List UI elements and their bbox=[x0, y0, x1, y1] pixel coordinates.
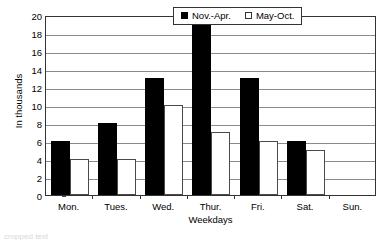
x-axis-title: Weekdays bbox=[45, 214, 376, 225]
x-tick-label: Wed. bbox=[140, 201, 187, 212]
x-tick-label: Sat. bbox=[281, 201, 328, 212]
bar-group bbox=[188, 17, 235, 195]
bar-sat-mayoct bbox=[306, 150, 325, 195]
bar-sat-novapr bbox=[287, 141, 306, 195]
y-tick-label: 18 bbox=[18, 30, 42, 40]
y-tick-mark bbox=[62, 196, 66, 197]
bar-group bbox=[46, 17, 93, 195]
y-tick-label: 20 bbox=[18, 12, 42, 22]
y-tick-label: 12 bbox=[18, 84, 42, 94]
legend-item-0: Nov.-Apr. bbox=[181, 10, 231, 21]
x-tick-label: Thur. bbox=[187, 201, 234, 212]
bar-group bbox=[141, 17, 188, 195]
y-tick-label: 6 bbox=[18, 138, 42, 148]
bar-tues-novapr bbox=[98, 123, 117, 195]
bar-tues-mayoct bbox=[117, 159, 136, 195]
legend-label-1: May-Oct. bbox=[256, 10, 295, 21]
legend-swatch-outline-icon bbox=[245, 12, 252, 19]
bar-mon-mayoct bbox=[70, 159, 89, 195]
x-tick-mark bbox=[187, 195, 188, 199]
y-tick-label: 8 bbox=[18, 120, 42, 130]
cropped-caption-sliver: cropped text bbox=[4, 232, 254, 240]
x-axis-ticks: Mon.Tues.Wed.Thur.Fri.Sat.Sun. bbox=[45, 201, 376, 215]
y-tick-label: 10 bbox=[18, 102, 42, 112]
y-tick-label: 0 bbox=[18, 192, 42, 202]
x-tick-label: Fri. bbox=[234, 201, 281, 212]
bar-fri-mayoct bbox=[259, 141, 278, 195]
legend-item-1: May-Oct. bbox=[245, 10, 295, 21]
bar-fri-novapr bbox=[240, 78, 259, 195]
x-tick-mark bbox=[92, 195, 93, 199]
chart-legend: Nov.-Apr. May-Oct. bbox=[173, 7, 302, 25]
bar-thur-mayoct bbox=[211, 132, 230, 195]
x-tick-label: Sun. bbox=[329, 201, 376, 212]
bar-group bbox=[330, 17, 377, 195]
x-tick-mark bbox=[234, 195, 235, 199]
bar-mon-novapr bbox=[51, 141, 70, 195]
x-tick-mark bbox=[281, 195, 282, 199]
y-axis-ticks: 02468101214161820 bbox=[18, 16, 42, 196]
x-tick-mark bbox=[140, 195, 141, 199]
y-tick-label: 16 bbox=[18, 48, 42, 58]
bar-chart: In thousands 02468101214161820 Nov.-Apr.… bbox=[0, 0, 388, 242]
y-tick-label: 2 bbox=[18, 174, 42, 184]
x-tick-mark bbox=[329, 195, 330, 199]
y-tick-label: 14 bbox=[18, 66, 42, 76]
legend-label-0: Nov.-Apr. bbox=[192, 10, 231, 21]
bar-wed-mayoct bbox=[164, 105, 183, 195]
bar-thur-novapr bbox=[192, 24, 211, 195]
bar-wed-novapr bbox=[145, 78, 164, 195]
bar-group bbox=[235, 17, 282, 195]
plot-inner bbox=[46, 17, 375, 195]
x-tick-label: Tues. bbox=[92, 201, 139, 212]
y-tick-label: 4 bbox=[18, 156, 42, 166]
legend-swatch-filled-icon bbox=[181, 12, 188, 19]
bar-group bbox=[282, 17, 329, 195]
plot-area bbox=[45, 16, 376, 196]
x-tick-label: Mon. bbox=[45, 201, 92, 212]
bar-group bbox=[93, 17, 140, 195]
